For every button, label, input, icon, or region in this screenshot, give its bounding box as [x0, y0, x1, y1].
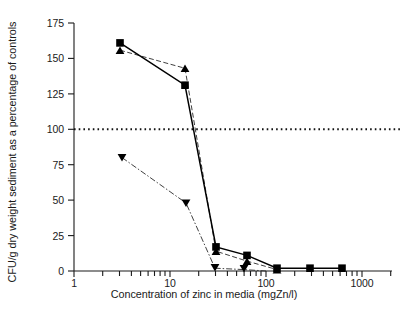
y-tick-label-50: 50	[38, 194, 64, 206]
y-tick-label-75: 75	[38, 159, 64, 171]
y-tick-label-150: 150	[38, 52, 64, 64]
series-triangle-up-line	[120, 50, 277, 269]
y-tick-label-100: 100	[38, 123, 64, 135]
x-axis-title: Concentration of zinc in media (mgZn/l)	[0, 288, 408, 300]
y-tick-label-0: 0	[38, 265, 64, 277]
series-triangle-down-markers	[118, 154, 249, 273]
y-axis-ticks	[68, 23, 74, 271]
series-triangle-up-markers	[116, 46, 282, 273]
y-axis-title: CFU/g dry weight sediment as a percentag…	[6, 12, 22, 292]
chart-figure: 175 150 125 100 75 50 25 0 1 10 100 1000…	[0, 0, 408, 314]
y-tick-label-25: 25	[38, 230, 64, 242]
y-tick-label-125: 125	[38, 88, 64, 100]
series-square-line	[120, 43, 342, 268]
series-square-markers	[116, 39, 346, 272]
y-tick-label-175: 175	[38, 17, 64, 29]
